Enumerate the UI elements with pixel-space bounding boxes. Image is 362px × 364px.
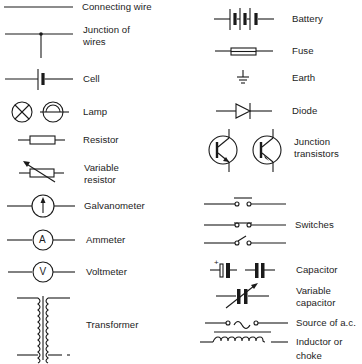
resistor-icon	[18, 136, 65, 144]
label-ammeter: Ammeter	[86, 234, 125, 246]
capacitor-icon: +	[210, 258, 275, 278]
label-connecting-wire: Connecting wire	[82, 1, 152, 13]
lamp-icon	[12, 102, 69, 122]
ac-source-icon	[205, 321, 288, 329]
label-diode: Diode	[292, 105, 317, 117]
circuit-symbols-chart: +	[0, 0, 362, 364]
label-battery: Battery	[292, 13, 323, 25]
cell-icon	[5, 69, 73, 90]
galvanometer-icon	[7, 195, 75, 217]
label-fuse: Fuse	[292, 45, 314, 57]
label-voltmeter: Voltmeter	[86, 266, 127, 278]
label-variable-resistor: Variable resistor	[84, 162, 119, 185]
earth-icon	[237, 70, 249, 83]
variable-capacitor-icon	[216, 283, 269, 308]
inductor-icon	[200, 332, 288, 342]
variable-resistor-icon	[19, 161, 64, 182]
battery-icon	[214, 8, 274, 30]
label-galvanometer: Galvanometer	[84, 200, 145, 212]
label-switches: Switches	[295, 219, 334, 231]
label-junction-of-wires: Junction of wires	[83, 24, 130, 47]
label-resistor: Resistor	[83, 134, 119, 146]
voltmeter-glyph: V	[40, 266, 47, 278]
label-capacitor: Capacitor	[296, 264, 338, 276]
label-source-of-ac: Source of a.c.	[296, 317, 356, 329]
label-lamp: Lamp	[83, 106, 107, 118]
label-variable-capacitor: Variable capacitor	[296, 285, 335, 308]
label-transformer: Transformer	[86, 319, 138, 331]
label-junction-transistors: Junction transistors	[294, 136, 339, 159]
fuse-icon	[215, 48, 273, 55]
junction-transistors-icon	[209, 129, 281, 172]
diode-icon	[216, 103, 272, 119]
transformer-icon	[17, 296, 70, 363]
junction-of-wires-icon	[5, 32, 73, 58]
label-cell: Cell	[83, 73, 100, 85]
ammeter-glyph: A	[39, 234, 46, 246]
switches-icon	[204, 198, 286, 245]
label-inductor-or-choke: Inductor or choke	[296, 335, 342, 363]
svg-text:+: +	[214, 258, 219, 267]
label-earth: Earth	[292, 72, 315, 84]
